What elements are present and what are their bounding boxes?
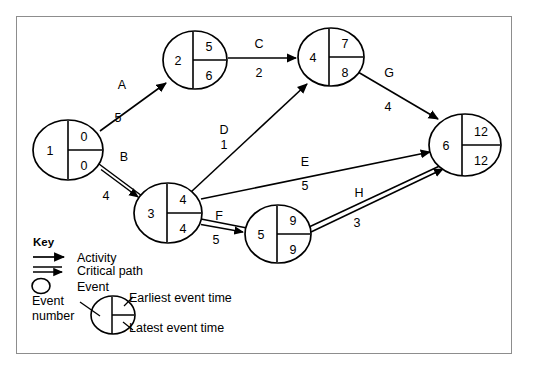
event-node-5-number: 5 — [258, 228, 265, 242]
event-node-3-latest: 4 — [180, 222, 187, 236]
legend-event-number-label-line2: number — [32, 309, 74, 323]
activity-H-label: H — [354, 186, 363, 200]
activity-G-line — [358, 72, 438, 119]
legend-item-event: Event — [32, 279, 109, 295]
activity-A-label: A — [118, 78, 127, 92]
event-node-2[interactable]: 2 5 6 — [163, 31, 227, 89]
event-node-4-earliest: 7 — [342, 37, 349, 51]
legend-item-critical-path: Critical path — [33, 264, 143, 278]
activity-C-label: C — [254, 37, 263, 51]
event-node-4-number: 4 — [310, 51, 317, 65]
activity-F-duration: 5 — [213, 233, 220, 247]
event-node-1-earliest: 0 — [81, 130, 88, 144]
legend-latest-event-time-label: Latest event time — [129, 321, 224, 335]
activity-C-duration: 2 — [256, 66, 263, 80]
activity-B-label: B — [120, 150, 128, 164]
network-diagram: A 5 B 4 C 2 D 1 E 5 — [0, 0, 544, 375]
activity-H-line-inner — [311, 169, 443, 232]
event-node-6[interactable]: 6 12 12 — [429, 114, 501, 176]
legend-heading: Key — [33, 236, 55, 248]
activity-E-duration: 5 — [302, 179, 309, 193]
activity-F-line-outer — [201, 219, 247, 228]
activity-B: B 4 — [99, 150, 142, 203]
activity-B-duration: 4 — [103, 189, 110, 203]
event-node-3-earliest: 4 — [180, 193, 187, 207]
legend-earliest-event-time-label: Earliest event time — [129, 291, 232, 305]
legend-event-number-label-line1: Event — [32, 294, 64, 308]
event-node-5-latest: 9 — [290, 243, 297, 257]
activity-C: C 2 — [228, 37, 296, 80]
event-node-3[interactable]: 3 4 4 — [134, 183, 202, 243]
circle-icon — [32, 279, 50, 294]
legend: Key Activity Critical path Event Event n… — [32, 236, 232, 335]
activity-G-label: G — [384, 66, 394, 80]
activity-F-label: F — [215, 209, 223, 223]
activity-D: D 1 — [191, 84, 307, 192]
activity-G-duration: 4 — [385, 100, 392, 114]
event-node-1-latest: 0 — [81, 159, 88, 173]
activity-E-label: E — [301, 155, 309, 169]
event-node-5-earliest: 9 — [290, 214, 297, 228]
activity-F: F 5 — [201, 209, 247, 247]
event-node-2-earliest: 5 — [206, 40, 213, 54]
event-node-1[interactable]: 1 0 0 — [33, 120, 103, 180]
activity-H-duration: 3 — [354, 216, 361, 230]
activity-A-line — [100, 83, 166, 131]
activity-D-line — [191, 84, 307, 192]
event-node-4[interactable]: 4 7 8 — [298, 28, 364, 86]
legend-item-critical-path-label: Critical path — [77, 264, 143, 278]
event-node-6-earliest: 12 — [474, 125, 488, 139]
activity-A: A 5 — [100, 78, 166, 131]
event-node-3-number: 3 — [148, 207, 155, 221]
legend-event-key: Event number Earliest event time Latest … — [32, 291, 232, 335]
event-node-5[interactable]: 5 9 9 — [245, 205, 311, 263]
legend-item-event-label: Event — [77, 280, 109, 294]
activity-A-duration: 5 — [115, 111, 122, 125]
event-node-2-latest: 6 — [206, 69, 213, 83]
legend-item-activity: Activity — [33, 251, 117, 265]
event-node-4-latest: 8 — [342, 66, 349, 80]
activity-G: G 4 — [358, 66, 438, 119]
event-node-6-latest: 12 — [474, 154, 488, 168]
activity-D-label: D — [219, 123, 228, 137]
event-node-6-number: 6 — [443, 139, 450, 153]
legend-item-activity-label: Activity — [77, 251, 117, 265]
event-nodes: 1 0 0 2 5 6 3 4 4 4 7 8 — [33, 28, 501, 263]
event-node-2-number: 2 — [175, 54, 182, 68]
event-node-1-number: 1 — [47, 144, 54, 158]
activity-D-duration: 1 — [221, 138, 228, 152]
